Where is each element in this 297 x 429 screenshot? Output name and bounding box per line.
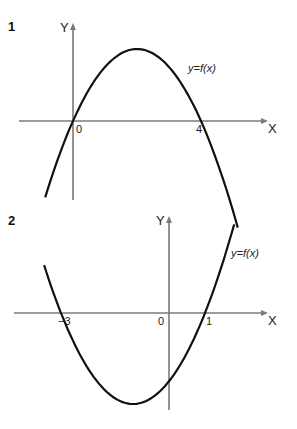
chart-canvas: 1 Y X 0 4 y=f(x) 2 Y X −3 0 1 y=f(x) bbox=[0, 0, 297, 429]
panel-2-y-label: Y bbox=[156, 213, 165, 228]
panel-2-number: 2 bbox=[8, 213, 15, 228]
panel-1-x-arrow-icon bbox=[261, 118, 268, 124]
panel-1-x-label: X bbox=[268, 121, 277, 136]
panel-1: 1 Y X 0 4 y=f(x) bbox=[8, 19, 277, 228]
panel-1-y-arrow-icon bbox=[70, 23, 76, 30]
panel-2-y-arrow-icon bbox=[166, 216, 172, 223]
panel-2-tick-0: 0 bbox=[158, 315, 164, 327]
panel-1-tick-0: 0 bbox=[76, 123, 82, 135]
panel-1-curve bbox=[45, 49, 238, 228]
panel-2-x-arrow-icon bbox=[261, 310, 268, 316]
panel-2-curve-label: y=f(x) bbox=[230, 247, 259, 259]
panel-2: 2 Y X −3 0 1 y=f(x) bbox=[8, 213, 277, 410]
panel-1-curve-label: y=f(x) bbox=[187, 62, 216, 74]
panel-2-tick-1: 1 bbox=[206, 315, 212, 327]
panel-2-curve bbox=[44, 224, 234, 404]
panel-1-number: 1 bbox=[8, 19, 15, 34]
panel-2-x-label: X bbox=[268, 313, 277, 328]
panel-1-tick-4: 4 bbox=[196, 123, 202, 135]
panel-1-y-label: Y bbox=[60, 20, 69, 35]
